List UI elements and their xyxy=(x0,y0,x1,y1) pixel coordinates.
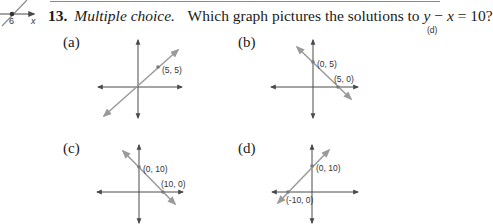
fragment-tick-label: 6 xyxy=(9,16,14,26)
graph-d-point-2 xyxy=(286,190,290,194)
fragment-line xyxy=(2,0,27,26)
graph-a: (5, 5) xyxy=(98,40,182,118)
previous-graph-fragment: 6 x xyxy=(0,0,36,26)
graph-c-point-1 xyxy=(137,165,141,169)
graph-c-point-2-label: (10, 0) xyxy=(161,179,186,189)
graph-b-point-2-label: (5, 0) xyxy=(334,74,354,84)
graph-d: (0, 10) (-10, 0) xyxy=(272,145,358,223)
graph-a-point xyxy=(156,65,160,69)
graph-d-point-1 xyxy=(310,164,314,168)
graph-c-line xyxy=(123,151,175,204)
graph-a-point-label: (5, 5) xyxy=(162,65,182,75)
graph-d-point-1-label: (0, 10) xyxy=(316,163,341,173)
graph-b-point-2 xyxy=(336,85,340,89)
equation-rest: = 10? xyxy=(454,7,493,24)
fragment-axis-label: x xyxy=(30,16,36,26)
graph-b-point-1-label: (0, 5) xyxy=(317,59,337,69)
graph-a-line xyxy=(104,50,178,116)
graph-c: (0, 10) (10, 0) xyxy=(97,145,186,223)
graph-c-point-2 xyxy=(161,190,165,194)
graph-b-line xyxy=(297,47,351,99)
graph-b: (0, 5) (5, 0) xyxy=(271,40,358,118)
graph-b-point-1 xyxy=(311,60,315,64)
equation-x: x xyxy=(447,7,454,24)
graph-d-point-2-label: (-10, 0) xyxy=(286,195,314,205)
graph-c-point-1-label: (0, 10) xyxy=(143,164,168,174)
